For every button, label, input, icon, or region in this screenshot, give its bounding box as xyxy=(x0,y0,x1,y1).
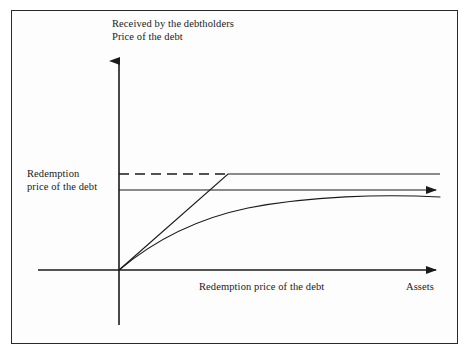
risky-debt-value-curve xyxy=(119,196,440,270)
x-axis-redemption-price-label: Redemption price of the debt xyxy=(199,281,324,294)
y-axis-title: Received by the debtholders Price of the… xyxy=(112,18,234,43)
x-axis-title: Assets xyxy=(406,281,434,294)
figure-container: Received by the debtholders Price of the… xyxy=(0,0,472,357)
riskless-debt-payoff-line xyxy=(119,174,440,270)
redemption-price-level-label: Redemption price of the debt xyxy=(27,168,97,193)
